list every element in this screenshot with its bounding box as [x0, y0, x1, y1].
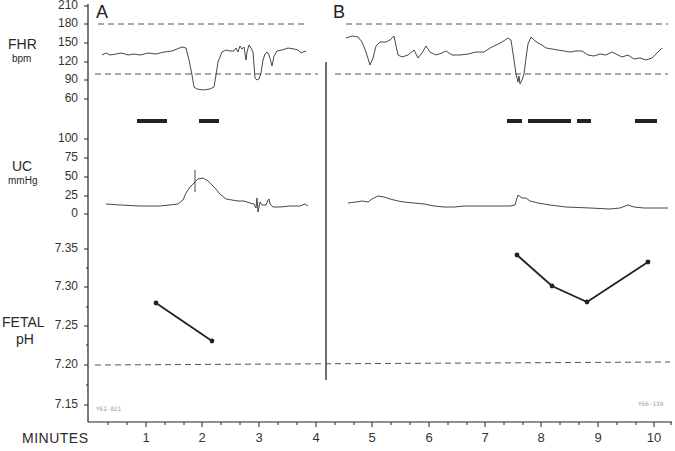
ph-reference-line	[95, 362, 670, 365]
ph-tick: 7.20	[38, 357, 78, 371]
uc-tick: 50	[38, 169, 78, 183]
fetal-monitoring-figure	[0, 0, 675, 451]
ph-unit: pH	[16, 331, 34, 347]
x-tick: 9	[588, 430, 608, 445]
fhr-tick: 210	[38, 0, 78, 12]
fhr-reference-lines	[95, 24, 668, 74]
uc-tick: 100	[38, 131, 78, 145]
x-tick: 7	[475, 430, 495, 445]
x-ticks	[108, 422, 671, 427]
ph-series-b	[515, 253, 651, 305]
panel-label-a: A	[96, 2, 108, 23]
x-tick: 2	[192, 430, 212, 445]
x-tick: 1	[136, 430, 156, 445]
fhr-label: FHR	[8, 36, 37, 52]
x-tick: 10	[644, 430, 664, 445]
uc-tick: 75	[38, 150, 78, 164]
x-tick: 3	[249, 430, 269, 445]
fhr-trace-a	[102, 45, 306, 90]
x-tick: 6	[419, 430, 439, 445]
fhr-tick: 150	[38, 35, 78, 49]
panel-label-b: B	[333, 2, 345, 23]
record-code-a: Y62-021	[96, 405, 121, 412]
uc-label: UC	[12, 158, 32, 174]
x-tick: 8	[531, 430, 551, 445]
fhr-tick: 120	[38, 54, 78, 68]
fhr-unit: bpm	[12, 53, 31, 64]
ph-tick: 7.30	[38, 279, 78, 293]
ph-series-a	[154, 301, 215, 344]
x-tick: 4	[306, 430, 326, 445]
fhr-tick: 90	[38, 72, 78, 86]
x-axis-label: MINUTES	[22, 430, 89, 446]
fhr-trace-b	[346, 36, 662, 84]
ph-tick: 7.35	[38, 241, 78, 255]
uc-tick: 0	[38, 206, 78, 220]
record-code-b: Y66-139	[638, 400, 663, 407]
x-tick: 5	[362, 430, 382, 445]
uc-unit: mmHg	[8, 175, 37, 186]
uc-tick: 25	[38, 188, 78, 202]
deceleration-bars	[137, 119, 657, 123]
ph-tick: 7.15	[38, 397, 78, 411]
ph-tick: 7.25	[38, 318, 78, 332]
fhr-tick: 60	[38, 91, 78, 105]
uc-trace-a	[106, 178, 308, 212]
uc-trace-b	[348, 195, 668, 209]
fhr-tick: 180	[38, 16, 78, 30]
